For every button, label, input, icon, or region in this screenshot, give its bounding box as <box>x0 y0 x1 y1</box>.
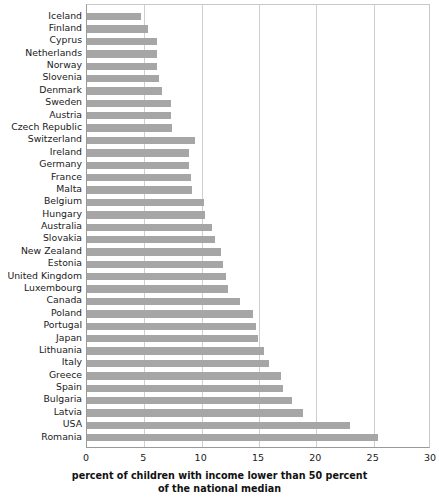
y-axis-label-canada: Canada <box>0 295 82 305</box>
bar-row <box>87 333 429 345</box>
y-axis-label-united-kingdom: United Kingdom <box>0 271 82 281</box>
y-axis-label-austria: Austria <box>0 110 82 120</box>
y-axis-label-australia: Australia <box>0 221 82 231</box>
bar-belgium <box>87 199 204 206</box>
y-axis-label-lithuania: Lithuania <box>0 345 82 355</box>
bar-row <box>87 407 429 419</box>
bar-row <box>87 209 429 221</box>
bar-czech-republic <box>87 124 172 131</box>
bar-poland <box>87 310 253 317</box>
y-axis-label-portugal: Portugal <box>0 320 82 330</box>
bar-row <box>87 11 429 23</box>
bar-row <box>87 72 429 84</box>
bar-row <box>87 221 429 233</box>
y-axis-label-italy: Italy <box>0 357 82 367</box>
bar-row <box>87 147 429 159</box>
y-axis-label-czech-republic: Czech Republic <box>0 122 82 132</box>
bar-row <box>87 159 429 171</box>
y-axis-label-hungary: Hungary <box>0 209 82 219</box>
bar-rows <box>87 5 429 447</box>
bar-row <box>87 271 429 283</box>
bar-slovenia <box>87 75 159 82</box>
bar-row <box>87 283 429 295</box>
bar-portugal <box>87 323 256 330</box>
bar-row <box>87 110 429 122</box>
bar-usa <box>87 422 350 429</box>
bar-row <box>87 196 429 208</box>
bar-romania <box>87 434 378 441</box>
x-tick-label-30: 30 <box>424 452 436 464</box>
y-axis-label-denmark: Denmark <box>0 85 82 95</box>
bar-row <box>87 184 429 196</box>
y-axis-label-malta: Malta <box>0 184 82 194</box>
bar-row <box>87 345 429 357</box>
y-axis-label-cyprus: Cyprus <box>0 35 82 45</box>
y-axis-label-usa: USA <box>0 419 82 429</box>
bar-austria <box>87 112 171 119</box>
y-axis-label-norway: Norway <box>0 60 82 70</box>
bar-row <box>87 395 429 407</box>
y-axis-label-netherlands: Netherlands <box>0 48 82 58</box>
bar-row <box>87 23 429 35</box>
bar-malta <box>87 186 192 193</box>
y-axis-label-ireland: Ireland <box>0 147 82 157</box>
y-axis-label-estonia: Estonia <box>0 258 82 268</box>
bar-row <box>87 246 429 258</box>
bar-hungary <box>87 211 205 218</box>
bar-row <box>87 122 429 134</box>
bar-canada <box>87 298 240 305</box>
x-tick-label-10: 10 <box>195 452 207 464</box>
y-axis-label-luxembourg: Luxembourg <box>0 283 82 293</box>
x-tick-label-0: 0 <box>83 452 89 464</box>
x-tick-label-20: 20 <box>309 452 321 464</box>
bar-norway <box>87 63 157 70</box>
bar-netherlands <box>87 50 157 57</box>
bar-row <box>87 134 429 146</box>
y-axis-label-belgium: Belgium <box>0 196 82 206</box>
bar-united-kingdom <box>87 273 226 280</box>
bar-latvia <box>87 409 303 416</box>
bar-new-zealand <box>87 248 221 255</box>
bar-luxembourg <box>87 285 228 292</box>
x-axis-ticks: 051015202530 <box>0 452 439 466</box>
y-axis-label-spain: Spain <box>0 382 82 392</box>
bar-france <box>87 174 191 181</box>
bar-row <box>87 295 429 307</box>
bar-row <box>87 97 429 109</box>
bar-row <box>87 60 429 72</box>
bar-iceland <box>87 13 141 20</box>
y-axis-label-slovenia: Slovenia <box>0 72 82 82</box>
y-axis-label-latvia: Latvia <box>0 407 82 417</box>
y-axis-label-bulgaria: Bulgaria <box>0 394 82 404</box>
bar-spain <box>87 385 283 392</box>
bar-row <box>87 419 429 431</box>
x-tick-label-25: 25 <box>367 452 379 464</box>
bar-chart: IcelandFinlandCyprusNetherlandsNorwaySlo… <box>0 0 439 501</box>
bar-row <box>87 48 429 60</box>
bar-japan <box>87 335 258 342</box>
bar-switzerland <box>87 137 195 144</box>
bar-cyprus <box>87 38 157 45</box>
y-axis-label-iceland: Iceland <box>0 11 82 21</box>
bar-italy <box>87 360 269 367</box>
y-axis-labels: IcelandFinlandCyprusNetherlandsNorwaySlo… <box>0 4 82 448</box>
bar-slovakia <box>87 236 215 243</box>
bar-greece <box>87 372 281 379</box>
bar-row <box>87 35 429 47</box>
y-axis-label-finland: Finland <box>0 23 82 33</box>
bar-row <box>87 357 429 369</box>
bar-row <box>87 234 429 246</box>
bar-finland <box>87 25 148 32</box>
bar-australia <box>87 224 212 231</box>
x-tick-label-5: 5 <box>140 452 146 464</box>
y-axis-label-romania: Romania <box>0 432 82 442</box>
bar-estonia <box>87 261 223 268</box>
y-axis-label-slovakia: Slovakia <box>0 233 82 243</box>
plot-area <box>86 4 430 448</box>
bar-row <box>87 258 429 270</box>
bar-row <box>87 370 429 382</box>
y-axis-label-greece: Greece <box>0 370 82 380</box>
bar-lithuania <box>87 347 264 354</box>
bar-row <box>87 308 429 320</box>
y-axis-label-germany: Germany <box>0 159 82 169</box>
